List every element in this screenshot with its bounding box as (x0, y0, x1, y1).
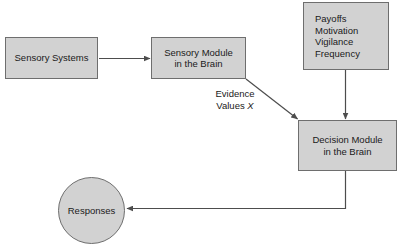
edge-label-variable-x: X (247, 100, 253, 111)
diagram-canvas: Sensory Systems Sensory Module in the Br… (0, 0, 402, 246)
edge-label-evidence-values: Evidence Values X (204, 88, 266, 111)
node-sensory-module-label: Sensory Module in the Brain (164, 47, 233, 70)
edge-label-evidence-line1: Evidence (204, 88, 266, 100)
node-decision-module[interactable]: Decision Module in the Brain (298, 120, 397, 171)
node-decision-module-label: Decision Module in the Brain (312, 134, 382, 157)
edge-label-evidence-line2: Values X (204, 100, 266, 112)
node-payoffs-label: Payoffs Motivation Vigilance Frequency (315, 13, 360, 59)
edge-decision-module-to-responses (127, 171, 346, 209)
node-sensory-systems-label: Sensory Systems (15, 52, 89, 64)
node-sensory-module[interactable]: Sensory Module in the Brain (151, 37, 246, 79)
node-responses-label: Responses (68, 205, 116, 217)
node-payoffs[interactable]: Payoffs Motivation Vigilance Frequency (303, 2, 389, 70)
node-sensory-systems[interactable]: Sensory Systems (5, 37, 98, 79)
node-responses[interactable]: Responses (58, 177, 125, 244)
edge-label-values-word: Values (216, 100, 247, 111)
